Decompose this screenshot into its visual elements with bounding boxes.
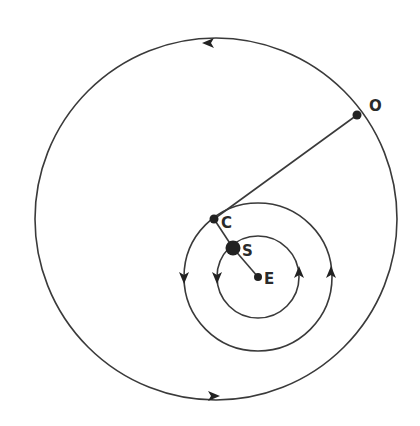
- point-e: [254, 273, 262, 281]
- orbit-diagram: OCSE: [0, 0, 420, 426]
- segment-o-c: [214, 115, 357, 219]
- label-c: C: [221, 214, 232, 232]
- label-s: S: [242, 242, 253, 260]
- direction-arrow-left-icon: [202, 38, 214, 48]
- point-o: [353, 111, 362, 120]
- point-c: [210, 215, 219, 224]
- label-o: O: [369, 97, 382, 115]
- label-e: E: [264, 270, 274, 288]
- point-s: [226, 241, 241, 256]
- direction-arrow-up-icon: [326, 266, 336, 278]
